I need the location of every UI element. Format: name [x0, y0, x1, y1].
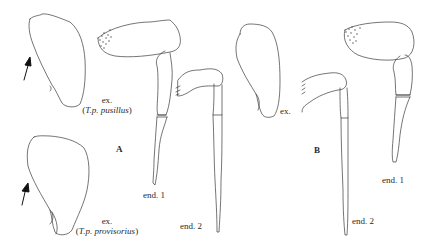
- taxon-caption-provisorius: (T.p. provisorius): [68, 226, 146, 236]
- ex-label: ex.: [102, 216, 113, 226]
- endopod-label-b-2: end. 2: [352, 216, 374, 226]
- setae-cluster-a: [99, 29, 111, 48]
- endopod-b-2-outline: [302, 73, 348, 235]
- exopod-label: ex.: [72, 95, 142, 105]
- endopod-label-b-1: end. 1: [382, 175, 404, 185]
- scientific-figure: ex. (T.p. pusillus) A ex. (T.p. provisor…: [0, 0, 431, 247]
- ex-label: ex.: [102, 95, 113, 105]
- arrow-icon: [22, 183, 29, 205]
- exopod-label: ex.: [68, 216, 146, 226]
- endopod-label-a-2: end. 2: [180, 221, 202, 231]
- paren-close: ): [129, 105, 132, 115]
- figure-drawing: [0, 0, 431, 247]
- paren-close: ): [135, 226, 138, 236]
- panel-label-a: A: [116, 144, 123, 154]
- exopod-b-outline: [236, 24, 280, 117]
- arrow-icon: [24, 57, 31, 80]
- exopod-label-b: ex.: [280, 106, 291, 116]
- taxon-name: T.p. pusillus: [85, 105, 129, 115]
- taxon-name: T.p. provisorius: [79, 226, 135, 236]
- endopod-b-1-outline: [344, 22, 414, 162]
- exopod-a-pusillus-outline: [29, 14, 85, 107]
- endopod-label-a-1: end. 1: [143, 190, 165, 200]
- panel-label-b: B: [314, 145, 320, 155]
- taxon-caption-pusillus: (T.p. pusillus): [72, 105, 142, 115]
- endopod-a-2-outline: [176, 69, 223, 232]
